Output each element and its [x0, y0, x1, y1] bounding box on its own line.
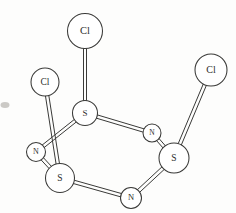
bond-s-right--n-bottom: [136, 165, 166, 194]
atom-n-left: N: [27, 143, 46, 162]
bond-n-left--s-top: [40, 118, 78, 149]
s-atom-sphere: [46, 164, 75, 193]
molecular-structure-figure: ClClClSSSNNN: [0, 0, 236, 213]
bond-n-bottom--s-left: [71, 180, 124, 198]
bond-cl-left--s-left: [45, 93, 60, 166]
cl-atom-sphere: [195, 54, 227, 86]
cl-atom-sphere: [31, 68, 59, 96]
edge-smudge: [1, 102, 10, 108]
bond-s-top--n-upright: [94, 114, 146, 133]
atom-s-left: S: [46, 164, 75, 193]
structure-canvas: ClClClSSSNNN: [0, 0, 236, 213]
atom-cl-top: Cl: [68, 14, 103, 49]
s-atom-sphere: [159, 143, 189, 173]
atom-s-right: S: [159, 143, 189, 173]
atom-n-upright: N: [143, 124, 161, 142]
scan-artifact-layer: [1, 102, 10, 108]
atom-n-bottom: N: [121, 188, 142, 209]
atom-s-top: S: [73, 101, 98, 126]
bond-cl-right--s-right: [177, 82, 207, 147]
n-atom-sphere: [27, 143, 46, 162]
atom-cl-right: Cl: [195, 54, 227, 86]
bond-cl-top--s-top: [84, 46, 87, 103]
s-atom-sphere: [73, 101, 98, 126]
n-atom-sphere: [121, 188, 142, 209]
cl-atom-sphere: [68, 14, 103, 49]
n-atom-sphere: [143, 124, 161, 142]
atom-cl-left: Cl: [31, 68, 59, 96]
atom-layer: ClClClSSSNNN: [27, 14, 228, 209]
